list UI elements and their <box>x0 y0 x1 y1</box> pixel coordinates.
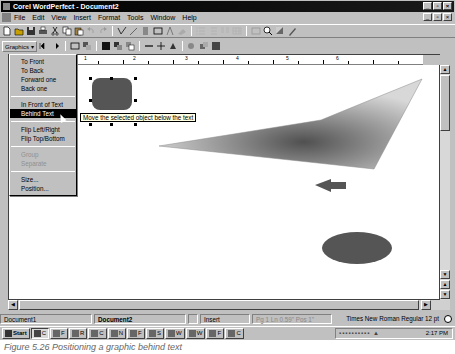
menu-item-size[interactable]: Size... <box>10 175 76 184</box>
line-icon[interactable] <box>144 41 154 51</box>
document-icon[interactable] <box>2 13 11 22</box>
vertical-scrollbar[interactable]: ▲ ▼ ▲ ▼ <box>440 65 450 300</box>
menu-format[interactable]: Format <box>98 14 120 21</box>
doc-close-button[interactable]: × <box>443 13 452 21</box>
cut-icon[interactable] <box>50 26 60 36</box>
clock[interactable]: 2:17 PM <box>426 330 448 336</box>
selection-handle[interactable] <box>89 123 92 126</box>
menu-item-to-front[interactable]: To Front <box>10 57 76 66</box>
gradient-polygon-shape[interactable] <box>159 79 422 169</box>
scroll-down-button[interactable]: ▼ <box>440 270 450 279</box>
table-icon[interactable] <box>232 26 242 36</box>
selection-handle[interactable] <box>110 123 113 126</box>
restore-button[interactable]: ▫ <box>433 2 442 10</box>
horizontal-scroll-thumb[interactable] <box>19 300 419 310</box>
selection-handle[interactable] <box>110 77 113 80</box>
taskbar-button[interactable]: F <box>206 328 224 339</box>
quickview-icon[interactable] <box>251 26 261 36</box>
document2-tab[interactable]: Document2 <box>94 314 186 324</box>
properties-icon[interactable] <box>211 41 221 51</box>
taskbar-button[interactable]: F <box>127 328 145 339</box>
columns-icon[interactable] <box>220 26 230 36</box>
highlight-icon[interactable] <box>141 26 151 36</box>
copy-object-icon[interactable] <box>187 41 197 51</box>
taskbar-button[interactable]: W <box>186 328 206 339</box>
scroll-up-button[interactable]: ▲ <box>440 65 450 74</box>
wrap-icon[interactable] <box>82 41 92 51</box>
taskbar-button[interactable]: S <box>146 328 164 339</box>
menu-tools[interactable]: Tools <box>127 14 143 21</box>
prev-object-icon[interactable] <box>39 41 49 51</box>
horizontal-ruler[interactable]: 1 2 3 4 5 6 <box>73 55 423 65</box>
menu-item-flip-top-bottom[interactable]: Flip Top/Bottom <box>10 134 76 143</box>
fill-style-icon[interactable] <box>101 41 111 51</box>
border-icon[interactable] <box>70 41 80 51</box>
zoom-icon[interactable] <box>263 26 273 36</box>
menu-window[interactable]: Window <box>150 14 175 21</box>
spellcheck-icon[interactable] <box>117 26 127 36</box>
numbering-icon[interactable] <box>208 26 218 36</box>
horizontal-scrollbar[interactable]: ◀ ▶ <box>8 300 450 310</box>
menu-item-behind-text[interactable]: Behind Text <box>10 109 76 118</box>
menu-item-to-back[interactable]: To Back <box>10 66 76 75</box>
graphics-dropdown-button[interactable]: Graphics ▾ <box>2 41 37 52</box>
paste-object-icon[interactable] <box>199 41 209 51</box>
selection-handle[interactable] <box>134 99 137 102</box>
scroll-left-button[interactable]: ◀ <box>8 300 18 310</box>
taskbar-button[interactable]: C <box>88 328 106 339</box>
insert-mode[interactable]: Insert <box>200 314 250 324</box>
undo-icon[interactable] <box>86 26 96 36</box>
menu-edit[interactable]: Edit <box>32 14 44 21</box>
print-icon[interactable] <box>38 26 48 36</box>
redo-icon[interactable] <box>98 26 108 36</box>
tray-icons[interactable]: ▪▪▪▪▪▪▪▪▪▪ ▲ <box>339 329 380 338</box>
close-button[interactable]: × <box>443 2 452 10</box>
minimize-button[interactable]: _ <box>423 2 432 10</box>
save-icon[interactable] <box>26 26 36 36</box>
caption-icon[interactable] <box>168 41 178 51</box>
combine-icon[interactable] <box>188 314 198 324</box>
ellipse-shape[interactable] <box>322 232 392 264</box>
doc-minimize-button[interactable]: _ <box>423 13 432 21</box>
copy-icon[interactable] <box>62 26 72 36</box>
scroll-thumb[interactable] <box>440 75 450 131</box>
paste-icon[interactable] <box>74 26 84 36</box>
doc-restore-button[interactable]: ▫ <box>433 13 442 21</box>
next-object-icon[interactable] <box>51 41 61 51</box>
pen-icon[interactable] <box>129 26 139 36</box>
crosshair-icon[interactable] <box>156 41 166 51</box>
shadow-icon[interactable] <box>275 26 285 36</box>
menu-insert[interactable]: Insert <box>73 14 91 21</box>
menu-view[interactable]: View <box>51 14 66 21</box>
menu-help[interactable]: Help <box>182 14 196 21</box>
menu-item-position[interactable]: Position... <box>10 184 76 193</box>
rounded-rect-shape[interactable] <box>92 78 132 110</box>
menu-file[interactable]: File <box>14 14 25 21</box>
text-icon[interactable] <box>165 26 175 36</box>
selection-handle[interactable] <box>134 77 137 80</box>
fill-icon[interactable] <box>177 26 187 36</box>
start-button[interactable]: Start <box>2 328 30 339</box>
taskbar-button[interactable]: C <box>225 328 243 339</box>
next-page-button[interactable]: ▼ <box>440 290 450 299</box>
scroll-right-button[interactable]: ▶ <box>421 300 431 310</box>
menu-item-forward-one[interactable]: Forward one <box>10 75 76 84</box>
menu-item-in-front-of-text[interactable]: In Front of Text <box>10 100 76 109</box>
menu-item-back-one[interactable]: Back one <box>10 84 76 93</box>
left-arrow-shape[interactable] <box>315 179 346 192</box>
bullets-icon[interactable] <box>196 26 206 36</box>
menu-item-flip-left-right[interactable]: Flip Left/Right <box>10 125 76 134</box>
pencil-icon[interactable] <box>287 26 297 36</box>
taskbar-button[interactable]: C <box>31 328 49 339</box>
rectangle-icon[interactable] <box>153 26 163 36</box>
taskbar-button[interactable]: R <box>69 328 87 339</box>
taskbar-button[interactable]: N <box>108 328 126 339</box>
document1-tab[interactable]: Document1 <box>0 314 92 324</box>
open-icon[interactable] <box>14 26 24 36</box>
to-back-icon[interactable] <box>125 41 135 51</box>
taskbar-button[interactable]: W <box>165 328 185 339</box>
to-front-icon[interactable] <box>113 41 123 51</box>
new-icon[interactable] <box>2 26 12 36</box>
prev-page-button[interactable]: ▲ <box>440 280 450 289</box>
selection-handle[interactable] <box>89 99 92 102</box>
